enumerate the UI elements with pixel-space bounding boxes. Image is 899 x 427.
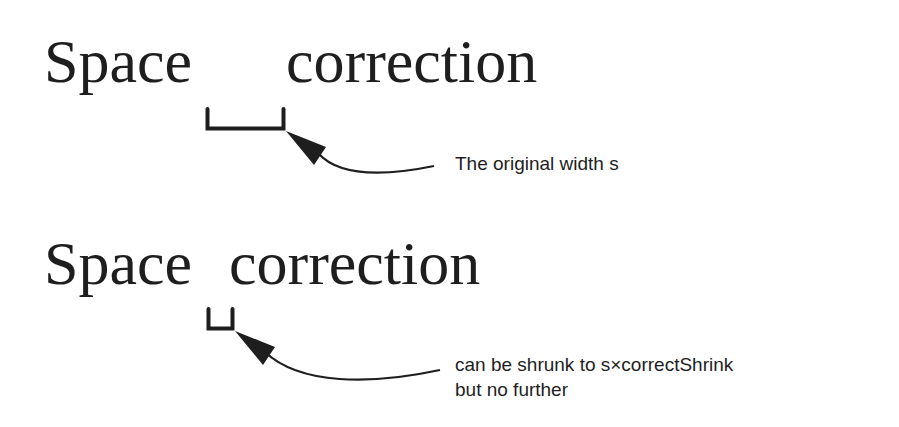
word-space-2: Space (44, 232, 192, 294)
arrow-curve-original (318, 153, 434, 173)
space-correction-diagram: Space correction The original width s Sp… (0, 0, 899, 427)
word-correction-2: correction (229, 232, 480, 294)
caption-shrunk-line-2: but no further (455, 378, 568, 402)
word-space-1: Space (44, 30, 192, 92)
arrow-curve-shrunk (265, 352, 440, 380)
arrowhead-original-icon (286, 131, 326, 165)
caption-original-width: The original width s (455, 152, 619, 176)
space-width-bracket-shrunk (209, 309, 233, 329)
space-width-bracket-original (208, 109, 284, 129)
caption-shrunk-line-1: can be shrunk to s×correctShrink (455, 353, 733, 377)
word-correction-1: correction (286, 30, 537, 92)
arrowhead-shrunk-icon (235, 331, 275, 365)
